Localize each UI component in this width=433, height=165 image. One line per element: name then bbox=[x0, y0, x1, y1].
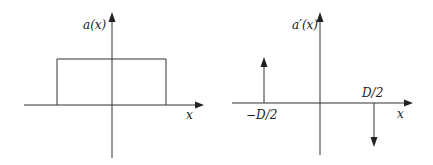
left-panel-pulse: a(x) x bbox=[24, 12, 204, 158]
impulse-down-arrow-icon bbox=[371, 137, 378, 147]
impulse-label-pos: D/2 bbox=[361, 86, 383, 100]
left-y-axis-arrow-icon bbox=[109, 12, 116, 22]
left-y-label: a(x) bbox=[83, 18, 107, 32]
right-x-label: x bbox=[397, 107, 404, 121]
right-x-axis-arrow-icon bbox=[404, 100, 413, 107]
right-y-label: a′(x) bbox=[292, 18, 318, 32]
left-x-axis-arrow-icon bbox=[195, 102, 204, 109]
impulse-label-neg: −D/2 bbox=[246, 108, 277, 122]
impulse-up-arrow-icon bbox=[261, 57, 268, 67]
left-x-label: x bbox=[186, 108, 193, 122]
derivative-diagram: a(x) x a′(x) −D/2 D/2 x bbox=[0, 0, 433, 165]
right-panel-impulses: a′(x) −D/2 D/2 x bbox=[232, 12, 413, 155]
